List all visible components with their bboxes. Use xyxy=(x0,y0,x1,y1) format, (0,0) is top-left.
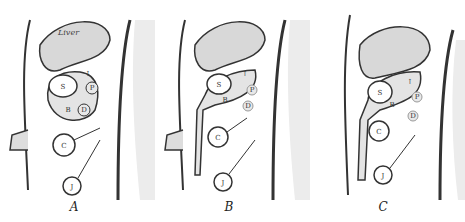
pancreas-label: P xyxy=(90,84,95,92)
stomach-label: S xyxy=(217,81,222,89)
duodenum-label: D xyxy=(410,112,416,120)
jejunum-label: J xyxy=(70,183,74,191)
stomach-label: S xyxy=(378,89,383,97)
arrow-label: ↑ xyxy=(407,78,413,86)
pancreas-label: P xyxy=(415,93,420,101)
arrow-label: ↑ xyxy=(242,70,248,78)
jejunum-label: J xyxy=(221,179,225,187)
liver-label: Liver xyxy=(57,28,80,37)
colon-label: C xyxy=(61,142,66,150)
caption-c: C xyxy=(373,200,393,214)
caption-a: A xyxy=(64,200,84,214)
panel-a: Liver S B P D C J ↑ A xyxy=(0,0,155,222)
jejunum-label: J xyxy=(381,172,385,180)
duodenum-label: D xyxy=(81,106,87,114)
colon-label: C xyxy=(376,128,381,136)
pancreas-label: P xyxy=(250,86,255,94)
panel-b: S B P D C J ↑ B xyxy=(155,0,310,222)
arrow-label: ↑ xyxy=(85,70,91,78)
bursa-label: B xyxy=(222,96,227,104)
stomach-label: S xyxy=(61,83,66,91)
diagram-c: S B P D C J ↑ xyxy=(310,0,465,222)
diagram-a: Liver S B P D C J ↑ xyxy=(0,0,155,222)
caption-b: B xyxy=(219,200,239,214)
panel-c: S B P D C J ↑ C xyxy=(310,0,465,222)
colon-label: C xyxy=(215,134,220,142)
duodenum-label: D xyxy=(245,102,251,110)
bursa-label: B xyxy=(65,106,70,114)
bursa-label: B xyxy=(389,101,394,109)
diagram-b: S B P D C J ↑ xyxy=(155,0,310,222)
